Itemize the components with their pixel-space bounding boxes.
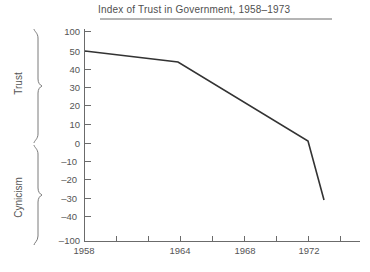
y-tick-label: 10 — [54, 120, 80, 130]
x-tick-label: 1972 — [289, 246, 329, 256]
y-tick-label: 0 — [54, 139, 80, 149]
x-tick-label: 1968 — [225, 246, 265, 256]
y-tick-label: –10 — [51, 157, 77, 167]
y-tick-label: –30 — [51, 194, 77, 204]
y-tick-label: –40 — [51, 212, 77, 222]
y-axis-ticks — [85, 32, 91, 217]
trust-brace-icon — [34, 29, 42, 143]
x-axis-ticks — [117, 236, 341, 241]
y-tick-label: 100 — [54, 27, 80, 37]
y-tick-label: –20 — [51, 175, 77, 185]
trust-brace-label: Trust — [13, 62, 24, 106]
chart-figure: Index of Trust in Government, 1958–1973 — [0, 0, 370, 272]
x-tick-label: 1964 — [160, 246, 200, 256]
cynicism-brace-icon — [34, 145, 42, 245]
y-tick-label: 20 — [54, 101, 80, 111]
trust-index-line — [85, 51, 324, 200]
chart-canvas — [0, 0, 370, 272]
x-tick-label: 1958 — [64, 246, 104, 256]
y-tick-label: 50 — [54, 47, 80, 57]
y-tick-label: 40 — [54, 65, 80, 75]
cynicism-brace-label: Cynicism — [13, 167, 24, 229]
y-tick-label: 30 — [54, 83, 80, 93]
